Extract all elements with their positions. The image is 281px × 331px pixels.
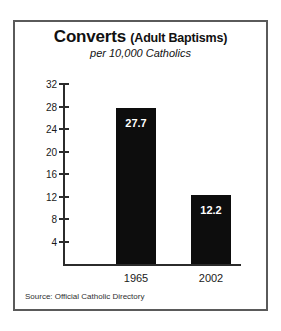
y-axis-tick-label: 20 (31, 146, 57, 157)
y-axis-tick-mark (59, 241, 69, 243)
y-axis-tick-mark (59, 83, 69, 85)
y-axis-tick-mark (59, 128, 69, 130)
y-axis-tick-label: 28 (31, 101, 57, 112)
x-axis-line (63, 264, 241, 266)
bar-2002: 12.2 (191, 195, 231, 264)
y-axis-tick-label: 4 (31, 236, 57, 247)
x-axis-label-2002: 2002 (199, 272, 223, 284)
bar-value-label: 12.2 (191, 204, 231, 216)
y-axis-line (63, 84, 65, 266)
y-axis-tick-label: 12 (31, 191, 57, 202)
y-axis-tick-label: 16 (31, 169, 57, 180)
source-note: Source: Official Catholic Directory (25, 292, 144, 301)
y-axis-tick-mark (59, 196, 69, 198)
bar-value-label: 27.7 (116, 117, 156, 129)
y-axis-tick-mark (59, 106, 69, 108)
y-axis-tick-label: 32 (31, 79, 57, 90)
y-axis-tick-mark (59, 151, 69, 153)
y-axis-tick-label: 8 (31, 214, 57, 225)
y-axis-tick-label: 24 (31, 124, 57, 135)
bar-1965: 27.7 (116, 108, 156, 264)
x-axis-label-1965: 1965 (124, 272, 148, 284)
y-axis-tick-mark (59, 218, 69, 220)
chart-frame: Converts (Adult Baptisms) per 10,000 Cat… (13, 20, 268, 311)
plot-area: 32282420161284 27.712.2 19652002 (15, 22, 270, 313)
y-axis-tick-mark (59, 173, 69, 175)
